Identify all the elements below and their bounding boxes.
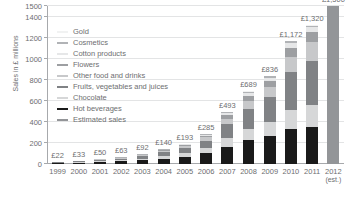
bar-segment[interactable] [200,141,212,149]
bar-segment[interactable] [264,136,276,164]
legend-item[interactable]: Other food and drinks [57,70,207,81]
legend-item[interactable]: Gold [57,26,207,37]
x-axis-label: 2006 [198,168,215,176]
bar-segment[interactable] [221,124,233,138]
legend-item[interactable]: Fruits, vegetables and juices [57,81,207,92]
x-axis-label: 2012(est.) [325,168,342,184]
bar-value-label: £1,172 [279,30,302,39]
bar-column[interactable]: £8362009 [264,76,276,164]
legend: GoldCosmeticsCotton productsFlowersOther… [57,26,207,125]
bar-column[interactable]: £922003 [137,154,149,164]
legend-swatch [57,119,68,121]
legend-label: Flowers [73,60,99,69]
bar-value-label: £50 [94,148,107,157]
bar-segment[interactable] [285,129,297,164]
bar-value-label: £92 [136,143,149,152]
bar-segment[interactable] [306,32,318,42]
bar-column[interactable]: £1,3202011 [306,25,318,164]
x-axis-label: 2008 [240,168,257,176]
bar-segment[interactable] [264,97,276,122]
legend-swatch [57,97,68,99]
bar-value-label: £689 [240,80,257,89]
bar-column[interactable]: £332000 [73,161,85,164]
x-axis-label: 2007 [219,168,236,176]
y-axis-title: Sales in £ millions [12,19,19,109]
bar-segment[interactable] [221,138,233,147]
legend-label: Estimated sales [73,115,126,124]
legend-item[interactable]: Estimated sales [57,114,207,125]
y-axis-label: 1200 [2,33,42,42]
bar-segment[interactable] [306,42,318,60]
bar-segment[interactable] [285,57,297,72]
x-axis-label: 2010 [283,168,300,176]
bar-column[interactable]: £1,1722010 [285,41,297,164]
bar-value-label: £22 [51,151,64,160]
bar-segment[interactable] [264,122,276,136]
fairtrade-sales-stacked-bar-chart: Sales in £ millions 02004006008001000120… [0,0,351,205]
bar-segment[interactable] [243,101,255,109]
y-axis-label: 1500 [2,2,42,11]
bar-segment[interactable] [264,87,276,97]
bar-column[interactable]: £2852006 [200,134,212,164]
y-axis-label: 800 [2,75,42,84]
bar-column[interactable]: £4932007 [221,112,233,164]
bar-segment[interactable] [306,127,318,164]
x-axis-label: 2011 [304,168,320,176]
bar-segment[interactable] [243,109,255,128]
x-axis-label: 2004 [155,168,172,176]
bar-segment[interactable] [285,110,297,129]
bar-segment[interactable] [285,48,297,57]
legend-swatch [57,53,68,55]
legend-item[interactable]: Hot beverages [57,103,207,114]
bar-column[interactable]: £6892008 [243,91,255,164]
bar-segment[interactable] [243,140,255,164]
x-axis-label: 1999 [49,168,66,176]
y-axis-label: 400 [2,117,42,126]
bar-segment[interactable] [52,163,64,164]
bar-segment[interactable] [221,147,233,164]
bar-segment[interactable] [115,161,127,164]
y-axis-label: 0 [2,160,42,169]
bar-column[interactable]: £502001 [94,159,106,164]
legend-label: Other food and drinks [73,71,145,80]
bar-column[interactable]: £1932005 [179,144,191,164]
bar-segment[interactable] [306,105,318,127]
y-axis-label: 1400 [2,12,42,21]
bar-segment[interactable] [200,153,212,164]
legend-swatch [57,42,68,44]
bar-segment[interactable] [73,163,85,164]
legend-swatch [57,64,68,66]
bar-segment[interactable] [137,160,149,164]
legend-label: Fruits, vegetables and juices [73,82,168,91]
x-axis-label: 2003 [134,168,151,176]
legend-swatch [57,86,68,88]
bar-column[interactable]: £221999 [52,162,64,164]
bar-column[interactable]: £1402004 [158,149,170,164]
legend-item[interactable]: Chocolate [57,92,207,103]
x-axis-sublabel: (est.) [325,176,342,184]
bar-segment[interactable] [94,162,106,164]
x-axis-label: 2009 [261,168,278,176]
legend-item[interactable]: Cotton products [57,48,207,59]
legend-swatch [57,75,68,77]
bar-value-label: £140 [155,138,172,147]
legend-label: Hot beverages [73,104,122,113]
bar-segment[interactable] [306,61,318,105]
legend-item[interactable]: Flowers [57,59,207,70]
y-axis-label: 200 [2,138,42,147]
legend-swatch [57,108,68,110]
bar-value-label: £63 [115,146,128,155]
bar-segment[interactable] [327,6,339,164]
y-axis-label: 1000 [2,54,42,63]
bar-segment[interactable] [285,72,297,110]
bar-segment[interactable] [158,159,170,164]
legend-label: Cotton products [73,49,126,58]
legend-item[interactable]: Cosmetics [57,37,207,48]
bar-column[interactable]: £632002 [115,157,127,164]
x-axis-label: 2002 [113,168,130,176]
bar-segment[interactable] [179,157,191,164]
bar-value-label: £836 [261,65,278,74]
bar-column[interactable]: £1,5002012(est.) [327,6,339,164]
bar-segment[interactable] [243,129,255,141]
bar-value-label: £1,500 [322,0,345,4]
